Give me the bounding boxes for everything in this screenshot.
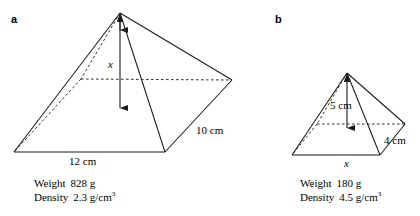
weight-value-a: 828 g (71, 177, 96, 189)
density-row-a: Density2.3 g/cm3 (34, 190, 115, 204)
hidden-edge-a-right (81, 79, 232, 80)
height-label-a: x (108, 58, 113, 70)
lateral-edge-b-right (347, 73, 405, 124)
weight-row-a: Weight828 g (34, 176, 115, 190)
slant-label-a: 10 cm (196, 124, 223, 136)
stats-block-a: Weight828 g Density2.3 g/cm3 (34, 176, 115, 204)
weight-key-b: Weight (300, 177, 332, 189)
height-label-b: 5 cm (330, 99, 352, 111)
figure-root: a b x 12 cm 10 cm 5 cm x 4 cm Weight828 … (0, 0, 420, 216)
lateral-edge-b-front (347, 73, 380, 155)
base-label-b: x (344, 157, 349, 169)
hidden-lateral-edge-a (81, 13, 120, 79)
base-edge-a-right (165, 80, 232, 152)
lateral-edge-a-right (120, 13, 232, 80)
density-value-b: 4.5 g/cm (339, 191, 378, 203)
weight-value-b: 180 g (337, 177, 362, 189)
weight-row-b: Weight180 g (300, 176, 381, 190)
slant-label-b: 4 cm (384, 134, 406, 146)
density-exponent-a: 3 (112, 190, 116, 198)
density-exponent-b: 3 (378, 190, 382, 198)
lateral-edge-a-front (120, 13, 165, 152)
density-key-a: Density (34, 191, 68, 203)
hidden-edge-a-left (14, 79, 81, 152)
density-value-a: 2.3 g/cm (73, 191, 112, 203)
panel-label-b: b (275, 14, 282, 25)
lateral-edge-a-left (14, 13, 120, 152)
panel-label-a: a (11, 14, 17, 25)
lateral-edge-b-left (292, 73, 347, 155)
density-row-b: Density4.5 g/cm3 (300, 190, 381, 204)
stats-block-b: Weight180 g Density4.5 g/cm3 (300, 176, 381, 204)
weight-key-a: Weight (34, 177, 66, 189)
density-key-b: Density (300, 191, 334, 203)
base-label-a: 12 cm (69, 155, 96, 167)
